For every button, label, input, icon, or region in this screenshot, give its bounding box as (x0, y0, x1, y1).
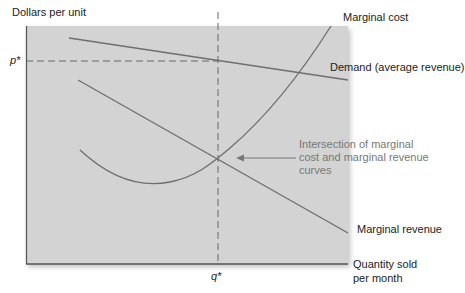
x-axis-label-line1: Quantity sold (353, 258, 417, 271)
marginal-cost-curve (80, 26, 331, 184)
marginal-revenue-label: Marginal revenue (357, 223, 442, 236)
arrow-head-icon (236, 155, 244, 162)
demand-label: Demand (average revenue) (330, 61, 465, 74)
annotation-line1: Intersection of marginal (299, 138, 413, 151)
p-star-label: p* (10, 54, 20, 67)
q-star-label: q* (211, 270, 221, 283)
annotation-line2: cost and marginal revenue (299, 151, 429, 164)
annotation-line3: curves (299, 164, 331, 177)
y-axis-label: Dollars per unit (12, 6, 86, 19)
demand-curve (69, 38, 348, 80)
x-axis-label-line2: per month (353, 272, 403, 285)
marginal-cost-label: Marginal cost (343, 11, 408, 24)
